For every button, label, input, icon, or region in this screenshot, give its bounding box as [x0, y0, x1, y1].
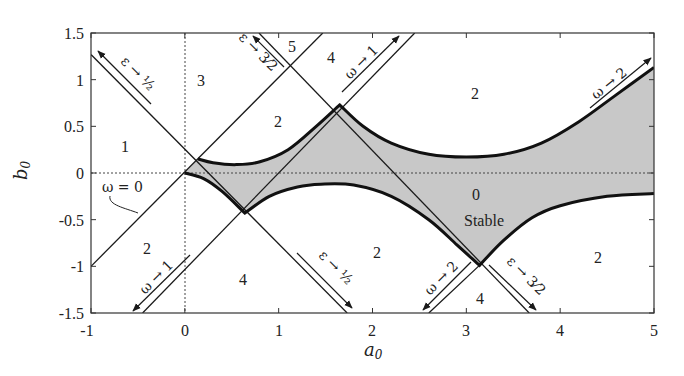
y-tick-neg1.5: -1.5 [59, 305, 84, 322]
region-5: 5 [288, 38, 296, 55]
y-tick-1.5: 1.5 [64, 25, 84, 42]
region-4-bottom: 4 [476, 290, 484, 307]
eps-3half-label-top: ε → 3⁄2 [236, 29, 281, 74]
y-tick-labels: 1.5 1 0.5 0 -0.5 -1 -1.5 [59, 25, 84, 322]
eps-3half-label-bottom: ε → 3⁄2 [504, 253, 549, 298]
region-2-upper-right: 2 [471, 85, 479, 102]
x-tick-labels: -1 0 1 2 3 4 5 [80, 322, 658, 339]
y-axis-label: b0 [10, 160, 33, 180]
region-3: 3 [197, 72, 205, 89]
x-tick-neg1: -1 [80, 322, 93, 339]
x-tick-0: 0 [181, 322, 189, 339]
y-tick-1: 1 [76, 72, 84, 89]
x-tick-1: 1 [275, 322, 283, 339]
region-2-bottom-middle: 2 [373, 244, 381, 261]
x-axis-label: a0 [364, 339, 383, 362]
omega-1-label-bottom: ω → 1 [136, 257, 176, 297]
region-4-bottom-left: 4 [239, 271, 247, 288]
region-4-top: 4 [327, 49, 335, 66]
omega-1-label-top: ω → 1 [341, 42, 381, 82]
stable-region-number: 0 [472, 186, 480, 203]
omega-zero-label: ω = 0 [102, 179, 143, 195]
region-2-upper-left: 2 [274, 113, 282, 130]
stable-region-label: Stable [464, 212, 504, 229]
eps-half-label-bottom: ε → ½ [316, 247, 357, 288]
y-tick-neg1: -1 [71, 258, 84, 275]
y-tick-0.5: 0.5 [64, 118, 84, 135]
x-tick-5: 5 [650, 322, 658, 339]
region-2-bottom-right: 2 [594, 249, 602, 266]
x-tick-3: 3 [462, 322, 470, 339]
y-tick-neg0.5: -0.5 [59, 212, 84, 229]
region-1: 1 [121, 138, 129, 155]
x-tick-2: 2 [368, 322, 376, 339]
y-tick-0: 0 [76, 165, 84, 182]
omega-zero-leader [110, 196, 138, 213]
stability-diagram: 1.5 1 0.5 0 -0.5 -1 -1.5 -1 0 1 2 3 4 5 … [0, 0, 684, 376]
x-tick-4: 4 [556, 322, 564, 339]
region-2-lower-left: 2 [143, 240, 151, 257]
stable-region [185, 68, 654, 266]
